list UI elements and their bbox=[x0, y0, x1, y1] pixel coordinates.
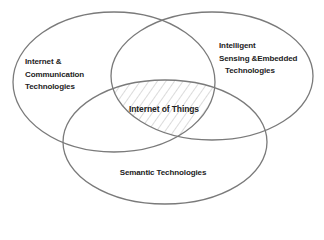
label-line: Semantic Technologies bbox=[0, 167, 324, 180]
internet-communication-label: Internet & Communication Technologies bbox=[25, 56, 84, 94]
internet-of-things-label: Internet of Things bbox=[129, 103, 199, 116]
label-line: Technologies bbox=[25, 81, 84, 94]
label-line: Technologies bbox=[219, 65, 297, 78]
label-line: Sensing &Embedded bbox=[219, 53, 297, 66]
semantic-technologies-label: Semantic Technologies bbox=[0, 167, 324, 180]
label-line: Internet of Things bbox=[129, 103, 199, 116]
label-line: Internet & bbox=[25, 56, 84, 69]
label-line: Communication bbox=[25, 69, 84, 82]
label-line: Intelligent bbox=[219, 40, 297, 53]
intelligent-sensing-label: Intelligent Sensing &Embedded Technologi… bbox=[219, 40, 297, 78]
